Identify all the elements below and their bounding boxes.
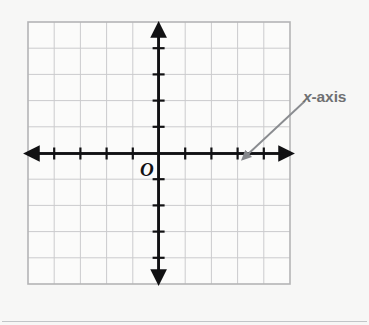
bottom-divider <box>2 321 367 322</box>
x-axis-callout-suffix: -axis <box>312 88 347 105</box>
origin-label: O <box>140 160 154 179</box>
coordinate-plane-figure: O x-axis <box>0 0 369 325</box>
x-axis-callout-italic-x: x <box>303 88 312 105</box>
coordinate-plane-graphic <box>0 0 369 325</box>
x-axis-callout-label: x-axis <box>303 88 346 106</box>
